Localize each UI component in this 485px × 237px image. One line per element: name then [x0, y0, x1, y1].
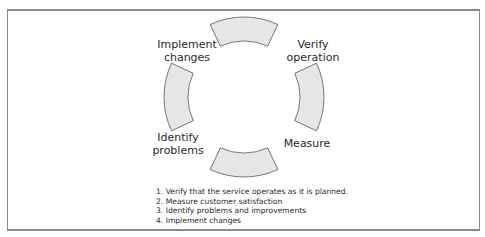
- label-line: Verify: [278, 38, 348, 51]
- step-item: 1. Verify that the service operates as i…: [156, 187, 348, 197]
- cycle-segment-bottom: [210, 148, 278, 177]
- cycle-segment-left: [164, 63, 193, 131]
- label-line: Identify: [143, 131, 213, 144]
- label-line: Implement: [147, 38, 227, 51]
- label-measure: Measure: [272, 137, 342, 150]
- label-implement-changes: Implement changes: [147, 38, 227, 64]
- label-line: problems: [143, 144, 213, 157]
- steps-list: 1. Verify that the service operates as i…: [156, 187, 348, 225]
- label-line: changes: [147, 51, 227, 64]
- label-verify-operation: Verify operation: [278, 38, 348, 64]
- cycle-segment-right: [295, 63, 324, 131]
- label-line: Measure: [272, 137, 342, 150]
- step-item: 3. Identify problems and improvements: [156, 206, 348, 216]
- label-identify-problems: Identify problems: [143, 131, 213, 157]
- step-item: 2. Measure customer satisfaction: [156, 197, 348, 207]
- step-item: 4. Implement changes: [156, 216, 348, 226]
- label-line: operation: [278, 51, 348, 64]
